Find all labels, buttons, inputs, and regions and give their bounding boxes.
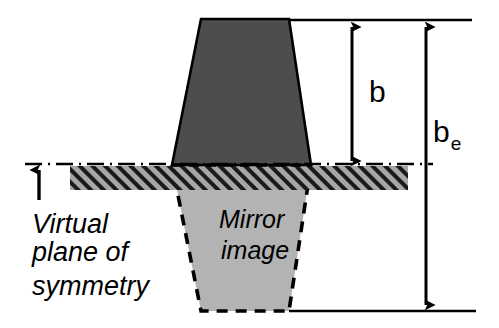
- diagram-root: b be Virtual plane of symmetry Mirror im…: [0, 0, 499, 328]
- virtual-plane-caption-line-3: symmetry: [32, 271, 150, 301]
- dimension-b-label: b: [369, 75, 386, 108]
- mirror-body-label-line-1: Mirror: [219, 205, 286, 233]
- virtual-plane-caption-line-2: plane of: [31, 237, 131, 267]
- mirror-body-label-line-2: image: [221, 236, 289, 264]
- symmetry-diagram-canvas: b be Virtual plane of symmetry Mirror im…: [0, 0, 499, 328]
- virtual-plane-caption-line-1: Virtual: [32, 209, 109, 239]
- symmetry-band: [70, 166, 408, 190]
- dimension-be-subscript: e: [451, 133, 462, 154]
- dimension-be-base: b: [433, 115, 450, 148]
